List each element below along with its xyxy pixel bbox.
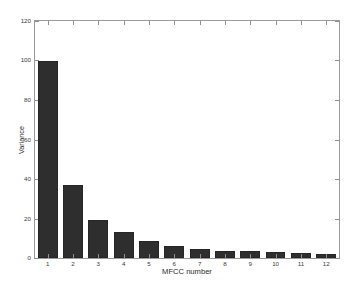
x-tick-label: 2 [71, 261, 74, 267]
bar-slot: 7 [187, 21, 212, 258]
x-tick-mark [98, 254, 99, 258]
x-tick-label: 5 [147, 261, 150, 267]
y-tick-mark [35, 258, 39, 259]
x-tick-mark [225, 254, 226, 258]
bar-slot: 5 [136, 21, 161, 258]
x-tick-label: 3 [97, 261, 100, 267]
bar [38, 61, 58, 259]
x-tick-mark [276, 254, 277, 258]
x-tick-mark [301, 254, 302, 258]
x-axis-label: MFCC number [34, 268, 340, 276]
x-tick-label: 8 [223, 261, 226, 267]
x-tick-mark-top [174, 21, 175, 25]
bar-slot: 1 [35, 21, 60, 258]
x-tick-label: 1 [46, 261, 49, 267]
y-tick-label: 0 [28, 255, 31, 261]
x-tick-mark [73, 254, 74, 258]
y-axis-label: Variance [18, 126, 25, 154]
x-tick-mark-top [73, 21, 74, 25]
x-tick-mark-top [250, 21, 251, 25]
x-tick-mark-top [48, 21, 49, 25]
bar-slot: 11 [288, 21, 313, 258]
y-tick-label: 20 [24, 215, 31, 221]
bar-slot: 10 [263, 21, 288, 258]
x-tick-mark [200, 254, 201, 258]
x-tick-mark [124, 254, 125, 258]
x-tick-mark-top [301, 21, 302, 25]
x-tick-label: 10 [272, 261, 279, 267]
bar-slot: 12 [314, 21, 339, 258]
bar [88, 220, 108, 258]
x-tick-mark [174, 254, 175, 258]
bar-slot: 8 [212, 21, 237, 258]
x-tick-label: 11 [298, 261, 304, 267]
x-tick-mark-top [326, 21, 327, 25]
bar-series: 123456789101112 [35, 21, 339, 258]
y-tick-label: 40 [24, 176, 31, 182]
x-tick-mark-top [149, 21, 150, 25]
bar-slot: 2 [60, 21, 85, 258]
x-tick-label: 9 [249, 261, 252, 267]
x-tick-mark [48, 254, 49, 258]
x-tick-label: 4 [122, 261, 125, 267]
bar-slot: 4 [111, 21, 136, 258]
x-tick-mark-top [98, 21, 99, 25]
x-tick-mark [250, 254, 251, 258]
x-tick-mark [149, 254, 150, 258]
bar-slot: 6 [162, 21, 187, 258]
x-tick-mark-top [225, 21, 226, 25]
x-tick-mark [326, 254, 327, 258]
x-tick-mark-top [276, 21, 277, 25]
plot-area: 020406080100120 123456789101112 [34, 20, 340, 259]
y-tick-label: 120 [21, 18, 31, 24]
x-tick-label: 12 [323, 261, 330, 267]
y-tick-label: 80 [24, 97, 31, 103]
y-tick-mark-right [335, 258, 339, 259]
bar [63, 185, 83, 258]
y-tick-label: 100 [21, 57, 31, 63]
x-tick-mark-top [124, 21, 125, 25]
x-tick-mark-top [200, 21, 201, 25]
bar-slot: 3 [86, 21, 111, 258]
bar-slot: 9 [238, 21, 263, 258]
figure-canvas: 020406080100120 123456789101112 Variance… [0, 0, 354, 289]
